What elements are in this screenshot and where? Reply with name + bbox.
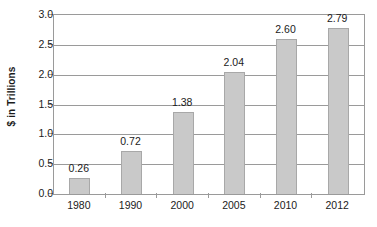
bar-value-label: 0.72 <box>120 135 140 147</box>
gridline <box>54 45 364 46</box>
plot-area <box>53 14 365 195</box>
bar[interactable] <box>328 28 349 194</box>
bar[interactable] <box>173 112 194 194</box>
x-axis-tick-label: 2012 <box>325 199 348 211</box>
x-axis-tick-mark <box>260 193 261 198</box>
chart-canvas: $ in Trillions 0.00.51.01.52.02.53.0 0.2… <box>0 0 377 227</box>
bar-value-label: 1.38 <box>172 96 192 108</box>
y-axis-tick-label: 3.0 <box>7 8 53 20</box>
y-axis-tick-label: 1.5 <box>7 98 53 110</box>
y-axis-tick-label: 0.5 <box>7 157 53 169</box>
gridline <box>54 134 364 135</box>
gridline <box>54 164 364 165</box>
gridline <box>54 105 364 106</box>
x-axis-tick-mark <box>208 193 209 198</box>
x-axis-tick-mark <box>105 193 106 198</box>
y-axis-tick-label: 0.0 <box>7 187 53 199</box>
gridline <box>54 75 364 76</box>
bar-value-label: 2.79 <box>327 12 347 24</box>
x-axis-tick-label: 1990 <box>119 199 142 211</box>
x-axis-tick-mark <box>311 193 312 198</box>
bar-value-label: 2.04 <box>224 56 244 68</box>
bar[interactable] <box>69 178 90 194</box>
bar-value-label: 0.26 <box>69 162 89 174</box>
y-axis-tick-label: 2.0 <box>7 68 53 80</box>
x-axis-tick-label: 2005 <box>222 199 245 211</box>
bar[interactable] <box>121 151 142 194</box>
y-axis-tick-label: 1.0 <box>7 127 53 139</box>
y-axis-tick-group: 0.00.51.01.52.02.53.0 <box>0 0 53 227</box>
bar[interactable] <box>224 72 245 194</box>
x-axis-tick-label: 2010 <box>274 199 297 211</box>
x-axis-tick-label: 2000 <box>170 199 193 211</box>
bar[interactable] <box>276 39 297 194</box>
x-axis-tick-label: 1980 <box>67 199 90 211</box>
bar-value-label: 2.60 <box>275 23 295 35</box>
y-axis-tick-label: 2.5 <box>7 38 53 50</box>
x-axis-tick-mark <box>156 193 157 198</box>
